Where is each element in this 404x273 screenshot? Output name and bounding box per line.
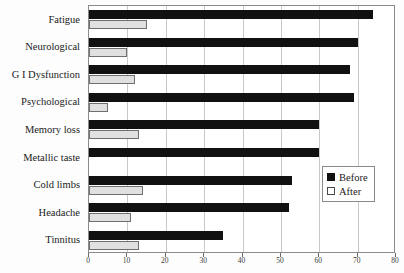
chart-page: FatigueNeurologicalG I DysfunctionPsycho…	[0, 0, 404, 273]
bar-before	[89, 65, 350, 74]
x-tick-label: 70	[353, 256, 361, 265]
chart-category-row	[89, 226, 394, 254]
bar-before	[89, 231, 223, 240]
y-axis-label-headache: Headache	[39, 206, 80, 217]
bar-before	[89, 38, 358, 47]
y-axis-label-g-i-dysfunction: G I Dysfunction	[12, 68, 80, 79]
bar-after	[89, 75, 135, 84]
bar-before	[89, 176, 292, 185]
chart-category-row	[89, 116, 394, 144]
x-tick-mark	[165, 253, 166, 257]
bar-after	[89, 103, 108, 112]
legend-swatch-before-icon	[327, 173, 335, 181]
x-tick-mark	[395, 253, 396, 257]
y-axis-label-tinnitus: Tinnitus	[45, 234, 80, 245]
x-tick-label: 80	[391, 256, 399, 265]
x-tick-mark	[280, 253, 281, 257]
chart-category-row	[89, 61, 394, 89]
legend-item-before: Before	[327, 170, 368, 184]
x-tick-mark	[126, 253, 127, 257]
x-tick-mark	[242, 253, 243, 257]
bar-before	[89, 93, 354, 102]
bar-after	[89, 20, 147, 29]
bar-after	[89, 130, 139, 139]
x-tick-label: 0	[86, 256, 90, 265]
y-axis-label-fatigue: Fatigue	[49, 13, 81, 24]
chart-title	[88, 0, 395, 1]
y-axis-label-neurological: Neurological	[25, 41, 80, 52]
bar-after	[89, 213, 131, 222]
chart-category-row	[89, 89, 394, 117]
bar-before	[89, 10, 373, 19]
y-axis-label-metallic-taste: Metallic taste	[23, 151, 80, 162]
legend-label-after: After	[339, 186, 361, 197]
bar-before	[89, 120, 319, 129]
x-tick-mark	[88, 253, 89, 257]
bar-before	[89, 148, 319, 157]
x-tick-label: 60	[315, 256, 323, 265]
legend-swatch-after-icon	[327, 187, 335, 195]
legend-item-after: After	[327, 184, 368, 198]
x-tick-label: 30	[199, 256, 207, 265]
x-axis-tick-labels: 01020304050607080	[88, 256, 395, 270]
chart-category-row	[89, 6, 394, 34]
x-tick-label: 10	[123, 256, 131, 265]
bar-after	[89, 241, 139, 250]
chart-category-row	[89, 199, 394, 227]
plot-area	[88, 5, 395, 253]
chart-legend: Before After	[322, 166, 375, 202]
chart-category-row	[89, 34, 394, 62]
legend-label-before: Before	[339, 172, 368, 183]
bar-before	[89, 203, 289, 212]
x-tick-label: 20	[161, 256, 169, 265]
x-tick-mark	[203, 253, 204, 257]
y-axis-label-psychological: Psychological	[21, 96, 80, 107]
x-tick-mark	[318, 253, 319, 257]
x-tick-label: 50	[276, 256, 284, 265]
bar-after	[89, 48, 127, 57]
x-tick-label: 40	[238, 256, 246, 265]
y-axis-category-labels: FatigueNeurologicalG I DysfunctionPsycho…	[0, 5, 84, 253]
y-axis-label-cold-limbs: Cold limbs	[34, 179, 80, 190]
bar-after	[89, 186, 143, 195]
y-axis-label-memory-loss: Memory loss	[25, 124, 80, 135]
x-tick-mark	[357, 253, 358, 257]
